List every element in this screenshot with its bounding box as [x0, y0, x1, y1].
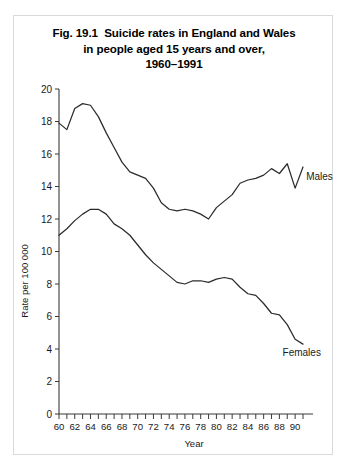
- x-tick-label: 88: [274, 421, 285, 432]
- y-axis-tick-labels: 02468101214161820: [41, 84, 53, 420]
- x-tick-label: 62: [69, 421, 80, 432]
- x-tick-label: 60: [54, 421, 65, 432]
- series-label-females: Females: [283, 347, 321, 358]
- x-tick-label: 80: [211, 421, 222, 432]
- x-tick-label: 68: [117, 421, 128, 432]
- y-tick-label: 2: [46, 376, 52, 387]
- axis-lines: [59, 89, 313, 414]
- chart-tick-marks: [55, 89, 303, 419]
- x-tick-label: 66: [101, 421, 112, 432]
- y-tick-label: 8: [46, 279, 52, 290]
- y-tick-label: 16: [41, 149, 53, 160]
- y-tick-label: 14: [41, 181, 53, 192]
- x-tick-label: 86: [258, 421, 269, 432]
- x-tick-label: 84: [243, 421, 254, 432]
- figure-panel: Fig. 19.1 Suicide rates in England and W…: [13, 15, 333, 455]
- y-tick-label: 10: [41, 246, 53, 257]
- y-axis-title: Rate per 100 000: [19, 244, 30, 317]
- x-tick-label: 70: [132, 421, 143, 432]
- y-tick-label: 12: [41, 214, 53, 225]
- chart-series-lines: [59, 104, 303, 345]
- x-tick-label: 90: [290, 421, 301, 432]
- x-tick-label: 82: [227, 421, 238, 432]
- series-line-females: [59, 209, 303, 344]
- x-axis-title: Year: [184, 438, 203, 449]
- x-axis-tick-labels: 60626466687072747678808284868890: [54, 421, 301, 432]
- y-tick-label: 6: [46, 311, 52, 322]
- x-tick-label: 76: [180, 421, 191, 432]
- series-label-males: Males: [306, 171, 333, 182]
- y-tick-label: 18: [41, 116, 53, 127]
- x-tick-label: 72: [148, 421, 159, 432]
- series-line-males: [59, 104, 303, 219]
- y-tick-label: 20: [41, 84, 53, 95]
- x-tick-label: 64: [85, 421, 96, 432]
- suicide-rates-line-chart: 02468101214161820 6062646668707274767880…: [14, 16, 334, 456]
- x-tick-label: 74: [164, 421, 175, 432]
- y-tick-label: 4: [46, 344, 52, 355]
- x-tick-label: 78: [195, 421, 206, 432]
- chart-axes: [59, 89, 313, 414]
- y-tick-label: 0: [46, 409, 52, 420]
